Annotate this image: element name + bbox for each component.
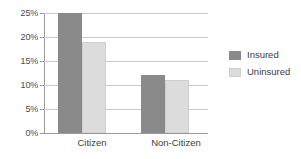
y-tick-20: 20% (0, 33, 38, 42)
y-tick-label-20: 20% (4, 33, 38, 42)
insured-swatch-icon (229, 51, 241, 60)
y-tick-label-15: 15% (4, 57, 38, 66)
bar-citizen-uninsured[interactable] (82, 42, 106, 133)
legend-item-insured[interactable]: Insured (229, 48, 290, 62)
y-tick-label-10: 10% (4, 81, 38, 90)
bar-citizen-insured[interactable] (58, 13, 82, 133)
legend-label-insured: Insured (247, 50, 279, 60)
legend: Insured Uninsured (229, 48, 290, 82)
legend-label-uninsured: Uninsured (247, 67, 290, 77)
bar-noncitizen-insured[interactable] (141, 75, 165, 133)
y-tick-label-5: 5% (4, 105, 38, 114)
bar-chart: 25% 20% 15% 10% 5% 0% Citizen Non-Citize… (0, 0, 301, 159)
x-axis-line (44, 133, 208, 134)
plot-area (44, 13, 208, 133)
y-tick-0: 0% (0, 129, 38, 138)
y-tick-25: 25% (0, 9, 38, 18)
legend-item-uninsured[interactable]: Uninsured (229, 65, 290, 79)
y-tick-5: 5% (0, 105, 38, 114)
uninsured-swatch-icon (229, 68, 241, 77)
x-tick-label-non-citizen: Non-Citizen (138, 137, 214, 148)
y-tick-label-0: 0% (4, 129, 38, 138)
x-tick-label-citizen: Citizen (62, 137, 122, 148)
y-tick-label-25: 25% (4, 9, 38, 18)
bar-noncitizen-uninsured[interactable] (165, 80, 189, 133)
y-tick-15: 15% (0, 57, 38, 66)
y-tick-10: 10% (0, 81, 38, 90)
